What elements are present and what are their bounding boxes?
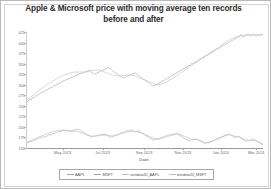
x-tick-label: May 2023 — [54, 150, 71, 155]
chart-title-line-1: Apple & Microsoft price with moving aver… — [7, 4, 260, 15]
legend-label: window20_AAPL — [131, 172, 160, 177]
legend-item[interactable]: AAPL — [67, 172, 85, 177]
legend-line-swatch — [169, 174, 176, 175]
x-tick-label: Nov 2023 — [175, 150, 192, 155]
legend-item[interactable]: MSFT — [94, 172, 113, 177]
series-line — [27, 35, 263, 100]
x-axis-label: Date — [26, 157, 262, 162]
series-line — [27, 129, 263, 145]
series-line — [27, 130, 263, 144]
legend-label: window20_MSFT — [177, 172, 206, 177]
plot-area — [26, 32, 263, 149]
chart-figure: Apple & Microsoft price with moving aver… — [0, 0, 271, 189]
chart-title: Apple & Microsoft price with moving aver… — [7, 4, 260, 25]
plot-lines — [27, 32, 263, 148]
x-tick-label: Jan 2024 — [213, 150, 229, 155]
legend-label: AAPL — [75, 172, 85, 177]
x-tick-label: Jul 2023 — [95, 150, 110, 155]
legend-line-swatch — [122, 174, 129, 175]
chart-title-line-2: before and after — [7, 15, 260, 26]
legend-label: MSFT — [103, 172, 113, 177]
legend-item[interactable]: window20_MSFT — [169, 172, 207, 177]
legend-line-swatch — [67, 174, 74, 175]
x-tick-label: Sep 2023 — [136, 150, 153, 155]
series-line — [27, 34, 263, 101]
x-tick-label: Mar 2024 — [248, 150, 264, 155]
legend-line-swatch — [94, 174, 101, 175]
chart-legend: AAPLMSFTwindow20_AAPLwindow20_MSFT — [59, 169, 214, 180]
legend-item[interactable]: window20_AAPL — [122, 172, 159, 177]
